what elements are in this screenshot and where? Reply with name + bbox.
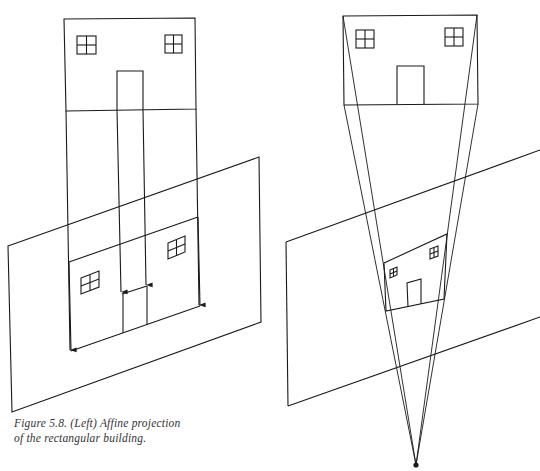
caption-line-2: of the rectangular building. bbox=[14, 431, 214, 446]
right-door bbox=[397, 66, 424, 104]
figure-caption: Figure 5.8. (Left) Affine projection of … bbox=[14, 416, 214, 446]
left-window-1 bbox=[77, 36, 96, 54]
right-panel-perspective bbox=[286, 15, 540, 468]
right-image-plane bbox=[286, 150, 540, 406]
right-projected-facade bbox=[384, 234, 447, 311]
left-building-facade bbox=[64, 18, 196, 111]
left-image-plane bbox=[8, 157, 261, 412]
left-door bbox=[117, 71, 143, 110]
left-panel-affine bbox=[8, 18, 261, 412]
caption-line-1: Figure 5.8. (Left) Affine projection bbox=[14, 416, 214, 431]
figure-diagram bbox=[0, 0, 540, 471]
left-projected-facade bbox=[69, 217, 200, 351]
center-of-projection-point bbox=[413, 462, 418, 467]
right-window-2 bbox=[445, 28, 463, 46]
left-window-2 bbox=[165, 35, 182, 53]
right-projection-rays bbox=[343, 15, 478, 465]
right-window-1 bbox=[356, 30, 374, 48]
